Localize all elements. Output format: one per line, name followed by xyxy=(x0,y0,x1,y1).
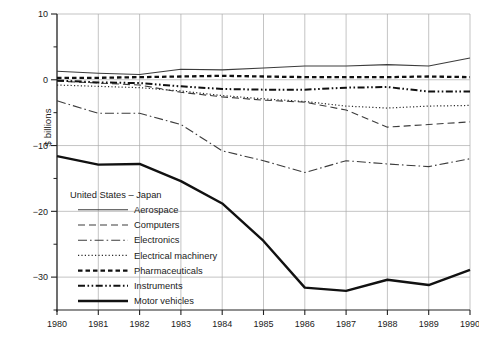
legend-label-electrical-machinery: Electrical machinery xyxy=(134,251,218,261)
legend-label-instruments: Instruments xyxy=(134,281,183,291)
legend-label-motor-vehicles: Motor vehicles xyxy=(134,296,194,306)
tick-labels-layer: 100−10−20−301980198119821983198419851986… xyxy=(33,9,479,329)
y-tick-label: −30 xyxy=(33,272,48,282)
x-tick-label: 1984 xyxy=(212,319,232,329)
x-tick-label: 1988 xyxy=(377,319,397,329)
x-tick-label: 1985 xyxy=(253,319,273,329)
chart-legend: United States – JapanAerospaceComputersE… xyxy=(70,190,218,306)
line-chart: 100−10−20−301980198119821983198419851986… xyxy=(0,0,479,344)
x-tick-label: 1980 xyxy=(47,319,67,329)
x-tick-label: 1987 xyxy=(336,319,356,329)
y-tick-label: 10 xyxy=(38,9,48,19)
x-tick-label: 1983 xyxy=(171,319,191,329)
x-tick-label: 1990 xyxy=(460,319,479,329)
y-tick-label: 0 xyxy=(43,75,48,85)
y-tick-label: −20 xyxy=(33,207,48,217)
grid-layer xyxy=(57,14,470,310)
legend-title: United States – Japan xyxy=(70,190,161,200)
x-tick-label: 1986 xyxy=(295,319,315,329)
legend-label-pharmaceuticals: Pharmaceuticals xyxy=(134,266,203,276)
series-line-pharmaceuticals xyxy=(57,76,470,78)
x-tick-label: 1982 xyxy=(130,319,150,329)
x-tick-label: 1989 xyxy=(419,319,439,329)
x-tick-label: 1981 xyxy=(88,319,108,329)
chart-container: $ billions 100−10−20−3019801981198219831… xyxy=(0,0,479,344)
legend-label-electronics: Electronics xyxy=(134,235,180,245)
legend-label-aerospace: Aerospace xyxy=(134,205,178,215)
y-tick-label: −10 xyxy=(33,141,48,151)
legend-label-computers: Computers xyxy=(134,220,180,230)
